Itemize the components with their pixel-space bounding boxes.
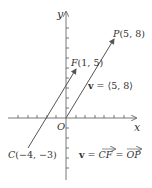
- point-p-label: P(5, 8): [112, 28, 145, 39]
- y-axis: [66, 12, 69, 180]
- y-axis-label: y: [56, 8, 64, 21]
- point-f-label: F(1, 5): [70, 57, 103, 68]
- vector-op: [66, 39, 114, 118]
- vector-cf: [28, 69, 76, 148]
- svg-text:v = CF = OP: v = CF = OP: [78, 149, 141, 160]
- point-c-label: C(−4, −3): [8, 149, 57, 160]
- x-axis: [8, 115, 136, 118]
- v-equality-label: v = CF = OP: [78, 149, 141, 160]
- v-component-label: v = ⟨5, 8⟩: [87, 80, 133, 91]
- origin-label: O: [57, 121, 65, 132]
- x-axis-label: x: [134, 121, 141, 134]
- vector-diagram: y x O P(5, 8) F(1, 5) C(−4, −3) v = ⟨5, …: [0, 0, 152, 188]
